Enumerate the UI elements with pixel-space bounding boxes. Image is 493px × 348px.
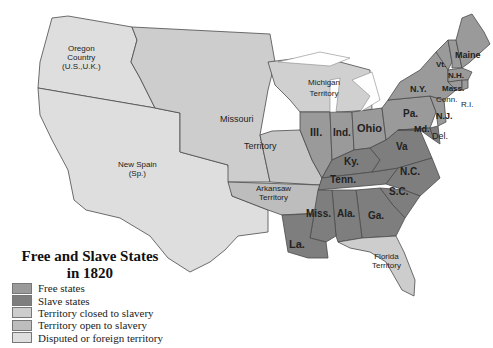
label-line: Territory <box>308 89 340 98</box>
label-maine: Maine <box>455 50 481 60</box>
legend-label: Free states <box>38 282 85 294</box>
legend: Free states Slave states Territory close… <box>12 282 163 344</box>
label-line: (Sp.) <box>118 169 157 178</box>
map-figure: Oregon Country (U.S.,U.K.) New Spain (Sp… <box>0 0 493 348</box>
label-line: Arkansaw <box>256 184 291 193</box>
label-line: Country <box>62 53 101 62</box>
legend-swatch <box>12 307 32 318</box>
label-md: Md. <box>414 124 430 134</box>
label-line: Florida <box>372 252 401 261</box>
label-missouri: Missouri <box>220 114 254 124</box>
label-ga: Ga. <box>368 210 384 222</box>
label-ill: Ill. <box>310 126 322 139</box>
label-vt: Vt. <box>436 60 446 69</box>
label-oregon: Oregon Country (U.S.,U.K.) <box>62 44 101 72</box>
label-va: Va <box>396 141 408 153</box>
legend-swatch <box>12 320 32 331</box>
label-territory: Territory <box>244 141 277 151</box>
label-tenn: Tenn. <box>330 174 356 186</box>
label-nj: N.J. <box>436 111 453 121</box>
label-florida: Florida Territory <box>372 252 401 270</box>
legend-item-free: Free states <box>12 282 163 294</box>
legend-item-closed: Territory closed to slavery <box>12 307 163 319</box>
label-line: Territory <box>372 261 401 270</box>
title-line: in 1820 <box>15 265 165 282</box>
legend-label: Territory closed to slavery <box>38 307 154 319</box>
label-del: Del. <box>432 131 448 141</box>
label-ky: Ky. <box>344 156 359 168</box>
label-ri: R.I. <box>461 100 473 109</box>
legend-swatch <box>12 283 32 294</box>
legend-label: Disputed or foreign territory <box>38 332 163 344</box>
label-la: La. <box>289 238 305 251</box>
label-line: (U.S.,U.K.) <box>62 62 101 71</box>
legend-item-disputed: Disputed or foreign territory <box>12 332 163 344</box>
label-pa: Pa. <box>403 108 418 120</box>
legend-label: Slave states <box>38 295 90 307</box>
label-line: Territory <box>256 193 291 202</box>
legend-item-open: Territory open to slavery <box>12 319 163 331</box>
label-sc: S.C. <box>389 186 408 198</box>
legend-swatch <box>12 332 32 343</box>
label-ny: N.Y. <box>410 84 427 94</box>
legend-item-slave: Slave states <box>12 294 163 306</box>
label-ohio: Ohio <box>357 122 382 135</box>
label-line: Oregon <box>62 44 101 53</box>
label-miss: Miss. <box>306 208 331 220</box>
map-title: Free and Slave States in 1820 <box>15 248 165 282</box>
label-michigan: Michigan Territory <box>308 78 340 98</box>
label-arkansaw: Arkansaw Territory <box>256 184 291 202</box>
label-ala: Ala. <box>337 208 355 220</box>
label-nc: N.C. <box>400 166 420 178</box>
label-nh: N.H. <box>448 71 464 80</box>
title-line: Free and Slave States <box>15 248 165 265</box>
legend-swatch <box>12 295 32 306</box>
label-mass: Mass. <box>442 84 464 93</box>
label-line: New Spain <box>118 160 157 169</box>
label-conn: Conn. <box>436 95 457 104</box>
label-new-spain: New Spain (Sp.) <box>118 160 157 178</box>
label-line: Michigan <box>308 78 340 87</box>
label-ind: Ind. <box>333 127 351 139</box>
legend-label: Territory open to slavery <box>38 319 147 331</box>
